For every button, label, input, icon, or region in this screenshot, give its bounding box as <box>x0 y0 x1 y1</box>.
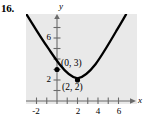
x-axis <box>26 98 136 104</box>
data-point-0-3 <box>54 67 59 72</box>
y-tick-label-2: 2 <box>41 75 51 84</box>
y-tick-label-6: 6 <box>41 33 51 42</box>
x-tick-label-2: 2 <box>72 107 84 116</box>
x-tick-label-4: 4 <box>92 107 104 116</box>
x-axis-label: x <box>138 96 142 105</box>
x-tick-label-6: 6 <box>113 107 125 116</box>
point-annotation-2-2: (2, 2) <box>62 82 83 92</box>
y-axis-label: y <box>59 2 63 11</box>
parabola-curve <box>27 14 127 78</box>
figure-container: 16. <box>0 0 146 125</box>
point-annotation-0-3: (0, 3) <box>61 58 82 68</box>
problem-number: 16. <box>1 2 14 15</box>
x-tick-label-neg2: -2 <box>30 107 42 116</box>
